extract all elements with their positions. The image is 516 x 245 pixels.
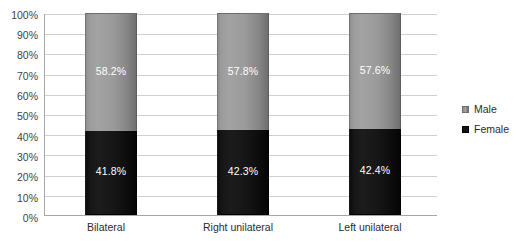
bar-value-label-male: 57.6% [360, 65, 390, 76]
bar-segment-female[interactable]: 42.4% [349, 129, 401, 215]
plot-area: 58.2% 41.8% 57.8% 42.3% 57.6% 42.4% [44, 14, 437, 216]
bar-segment-female[interactable]: 41.8% [85, 131, 137, 215]
bar-value-label-female: 42.3% [228, 166, 258, 177]
y-tick-label: 40% [0, 132, 38, 143]
legend-item-female[interactable]: Female [462, 121, 509, 137]
bar-group-bilateral[interactable]: 58.2% 41.8% [85, 13, 137, 215]
y-tick-label: 0% [0, 213, 38, 224]
y-tick-label: 60% [0, 91, 38, 102]
x-tick-label-right-unilateral: Right unilateral [176, 222, 300, 233]
y-tick-label: 70% [0, 71, 38, 82]
male-swatch-icon [462, 106, 469, 113]
y-tick-label: 80% [0, 50, 38, 61]
legend-item-male[interactable]: Male [462, 101, 509, 117]
bar-segment-female[interactable]: 42.3% [217, 130, 269, 215]
bar-value-label-male: 58.2% [96, 66, 126, 77]
y-tick-label: 30% [0, 152, 38, 163]
bar-segment-male[interactable]: 57.8% [217, 13, 269, 130]
bar-value-label-female: 41.8% [96, 166, 126, 177]
y-tick-label: 90% [0, 30, 38, 41]
x-tick-label-bilateral: Bilateral [44, 222, 168, 233]
y-tick-label: 10% [0, 193, 38, 204]
bar-group-left-unilateral[interactable]: 57.6% 42.4% [349, 13, 401, 215]
female-swatch-icon [462, 126, 469, 133]
y-tick-label: 50% [0, 111, 38, 122]
x-tick-label-left-unilateral: Left unilateral [308, 222, 432, 233]
bar-segment-male[interactable]: 58.2% [85, 13, 137, 131]
bar-segment-male[interactable]: 57.6% [349, 13, 401, 129]
bar-value-label-male: 57.8% [228, 66, 258, 77]
y-tick-label: 100% [0, 10, 38, 21]
legend: Male Female [462, 101, 509, 141]
legend-label-female: Female [474, 124, 509, 135]
legend-label-male: Male [474, 104, 497, 115]
bar-value-label-female: 42.4% [360, 165, 390, 176]
y-tick-label: 20% [0, 172, 38, 183]
stacked-bar-chart: 100% 90% 80% 70% 60% 50% 40% 30% 20% 10%… [0, 0, 516, 245]
bar-group-right-unilateral[interactable]: 57.8% 42.3% [217, 13, 269, 215]
